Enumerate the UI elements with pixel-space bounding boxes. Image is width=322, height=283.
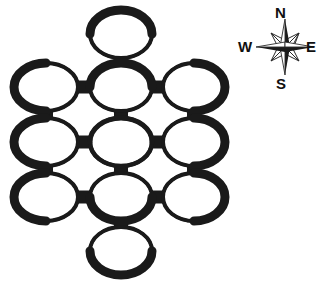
diagram-graphic bbox=[0, 0, 322, 283]
node-row2-left bbox=[14, 118, 78, 166]
node-bottom bbox=[90, 227, 152, 275]
compass-needle-west-light bbox=[256, 42, 285, 47]
node-top bbox=[90, 10, 152, 58]
compass-label-east: E bbox=[306, 39, 316, 54]
node-row2-center bbox=[90, 118, 152, 166]
compass-label-south: S bbox=[276, 76, 286, 91]
node-row1-right bbox=[163, 63, 225, 111]
node-layer bbox=[14, 10, 225, 275]
node-row1-left bbox=[14, 63, 78, 111]
compass-label-west: W bbox=[238, 39, 252, 54]
node-row3-left bbox=[14, 173, 78, 221]
node-row1-center bbox=[90, 63, 152, 111]
figure-canvas: N S W E bbox=[0, 0, 322, 283]
node-row3-right bbox=[163, 173, 225, 221]
node-row3-center bbox=[90, 173, 152, 221]
compass-label-north: N bbox=[275, 5, 286, 20]
node-row2-right bbox=[163, 118, 225, 166]
